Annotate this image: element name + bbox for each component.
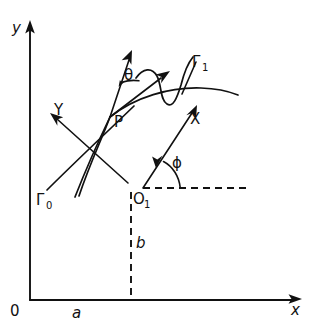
local-origin-label: O 1 [133,190,150,210]
local-Y-axis-label: Y [53,101,64,119]
global-y-axis [25,20,35,300]
local-origin-subscript: 1 [144,199,150,210]
local-X-axis [143,105,197,188]
local-X-axis-label: X [190,110,200,128]
global-origin-label: 0 [10,302,20,320]
gamma-1-subscript: 1 [202,62,208,73]
gamma-0-letter: Γ [36,191,45,209]
coordinate-diagram: y x 0 a b P θ ϕ Y X O 1 Γ 0 Γ 1 [0,0,323,329]
distance-b-label: b [136,234,146,252]
angle-phi-label: ϕ [172,154,182,172]
angle-theta-label: θ [124,66,133,84]
global-x-axis-label: x [290,301,300,319]
distance-a-label: a [72,304,81,322]
diagram-canvas: y x 0 a b P θ ϕ Y X O 1 Γ 0 Γ 1 [0,0,323,329]
curve-gamma-0-label: Γ 0 [36,191,52,211]
gamma-0-subscript: 0 [46,200,52,211]
global-x-axis [30,294,302,304]
gamma-1-letter: Γ [192,53,201,71]
curve-gamma-1-label: Γ 1 [192,53,208,73]
global-y-axis-label: y [11,19,22,37]
point-p-label: P [114,113,123,131]
